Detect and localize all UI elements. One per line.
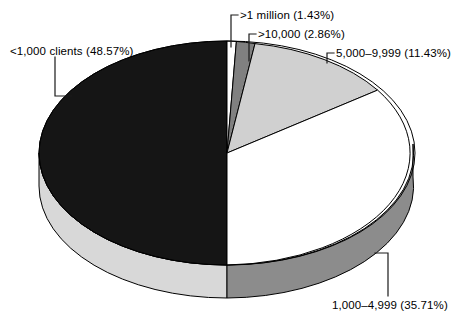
leader-line-lt-1000 — [55, 57, 72, 96]
pie-top-face — [39, 41, 410, 265]
pie-label-1000-4999: 1,000–4,999 (35.71%) — [332, 299, 448, 312]
pie-label-lt-1000: <1,000 clients (48.57%) — [10, 45, 133, 58]
pie-label-gt-1-million: >1 million (1.43%) — [240, 9, 334, 22]
leader-line-1000-4999 — [375, 253, 388, 296]
pie-label-gt-10000: >10,000 (2.86%) — [258, 28, 345, 41]
pie-chart-figure: <1,000 clients (48.57%) >1 million (1.43… — [0, 0, 456, 321]
pie-label-5000-9999: 5,000–9,999 (11.43%) — [336, 47, 451, 60]
